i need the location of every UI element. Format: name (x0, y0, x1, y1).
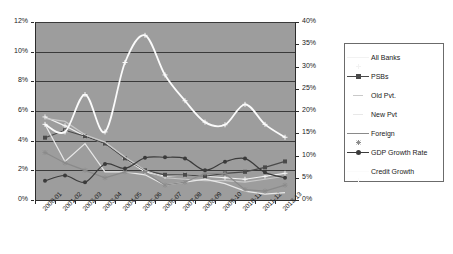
data-point-star (243, 187, 248, 192)
series-gdp-growth-rate (43, 155, 287, 184)
legend-swatch-icon (345, 91, 371, 101)
data-point-circle (183, 157, 187, 161)
data-point-circle (283, 176, 287, 180)
legend-line (353, 95, 363, 96)
data-point-circle (83, 180, 87, 184)
legend-item-label: All Banks (371, 54, 400, 61)
data-point-star (183, 180, 188, 185)
data-point-star (63, 160, 68, 165)
data-point-plus (283, 171, 288, 176)
data-point-circle (63, 174, 67, 178)
data-point-square (243, 170, 247, 174)
series-old-pvt- (45, 118, 285, 182)
data-point-circle (43, 179, 47, 183)
legend-item-label: PSBs (371, 73, 389, 80)
y-axis-right-line (295, 22, 296, 201)
legend-line (353, 114, 363, 115)
legend-item-label: Credit Growth (371, 168, 414, 175)
chart-legend: All BanksPSBsOld Pvt.New PvtForeignGDP G… (344, 43, 444, 182)
data-point-square (163, 173, 167, 177)
legend-swatch-icon (345, 167, 371, 177)
data-point-plus (63, 123, 68, 128)
legend-item-label: Old Pvt. (371, 92, 396, 99)
data-point-circle (223, 160, 227, 164)
legend-swatch-icon (345, 53, 371, 63)
series-line (45, 118, 285, 182)
data-point-plus (243, 177, 248, 182)
legend-item-old-pvt-[interactable]: Old Pvt. (345, 86, 445, 105)
data-point-square (283, 159, 287, 163)
legend-item-all-banks[interactable]: All Banks (345, 48, 445, 67)
data-point-star (163, 183, 168, 188)
data-point-star (43, 150, 48, 155)
legend-item-label: GDP Growth Rate (371, 149, 427, 156)
data-point-star (283, 183, 288, 188)
data-point-star (223, 171, 228, 176)
legend-item-new-pvt[interactable]: New Pvt (345, 105, 445, 124)
data-point-plus (243, 102, 248, 107)
data-point-circle (103, 162, 107, 166)
legend-marker-plus-icon (356, 169, 361, 174)
legend-marker-star-icon (356, 131, 361, 136)
data-point-star (103, 175, 108, 180)
legend-marker-plus-icon (356, 55, 361, 60)
data-point-circle (143, 156, 147, 160)
legend-item-gdp-growth-rate[interactable]: GDP Growth Rate (345, 143, 445, 162)
series-psbs (43, 128, 287, 178)
data-point-star (143, 169, 148, 174)
data-point-square (183, 173, 187, 177)
data-point-plus (223, 175, 228, 180)
data-point-circle (163, 155, 167, 159)
legend-swatch-icon (345, 110, 371, 120)
legend-item-label: Foreign (371, 130, 395, 137)
legend-marker-circle-icon (356, 150, 361, 155)
data-point-star (263, 189, 268, 194)
data-point-plus (263, 174, 268, 179)
data-point-square (263, 165, 267, 169)
legend-swatch-icon (345, 148, 371, 158)
data-point-circle (123, 166, 127, 170)
legend-item-credit-growth[interactable]: Credit Growth (345, 162, 445, 181)
legend-item-label: New Pvt (371, 111, 397, 118)
y-axis-left-line (35, 22, 36, 201)
data-point-square (43, 136, 47, 140)
legend-marker-square-icon (356, 74, 361, 79)
legend-item-foreign[interactable]: Foreign (345, 124, 445, 143)
legend-item-psbs[interactable]: PSBs (345, 67, 445, 86)
data-point-star (83, 168, 88, 173)
series-line (45, 35, 285, 137)
series-credit-growth (43, 33, 288, 140)
data-point-circle (203, 168, 207, 172)
data-point-circle (243, 157, 247, 161)
data-point-circle (263, 170, 267, 174)
legend-swatch-icon (345, 72, 371, 82)
legend-swatch-icon (345, 129, 371, 139)
x-axis-line (35, 200, 296, 201)
series-line (45, 117, 285, 179)
chart-container: 0%2%4%6%8%10%12% 0%5%10%15%20%25%30%35%4… (0, 0, 453, 254)
data-point-plus (123, 60, 128, 65)
